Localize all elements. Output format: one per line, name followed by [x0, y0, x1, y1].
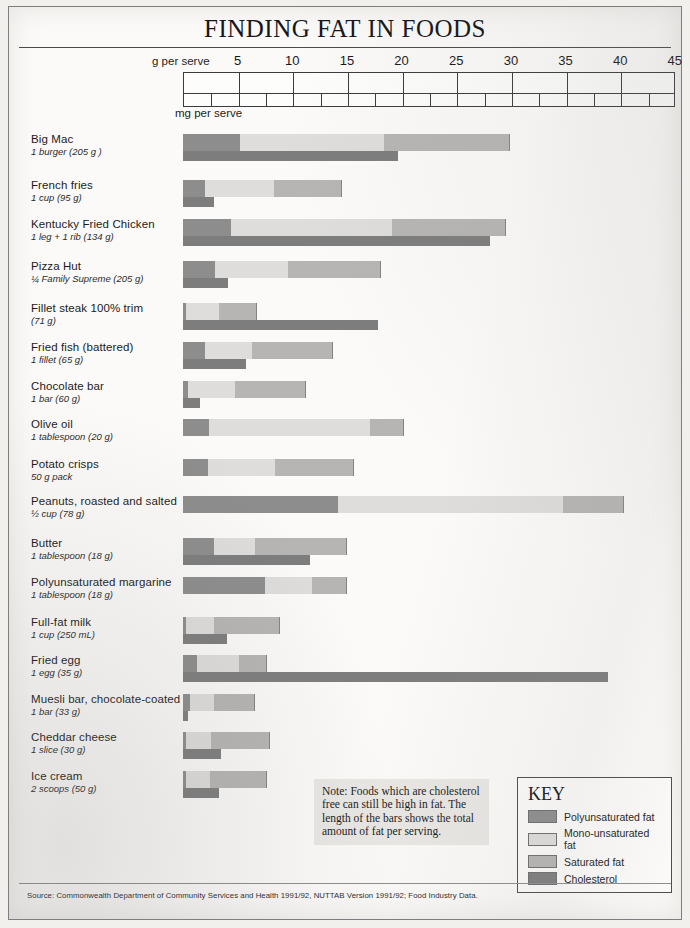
bar-segment-monounsaturated — [186, 617, 214, 634]
serve-size: 1 cup (95 g) — [31, 192, 93, 204]
food-name: Peanuts, roasted and salted — [31, 495, 177, 508]
axis-gridline-15 — [348, 73, 349, 93]
bar-segment-polyunsaturated — [183, 538, 215, 555]
bar-segment-saturated — [312, 577, 347, 594]
serve-size: 1 leg + 1 rib (134 g) — [31, 231, 155, 243]
legend-label: Mono-unsaturated fat — [564, 827, 663, 851]
food-name: Full-fat milk — [31, 616, 95, 629]
chart-page: FINDING FAT IN FOODS g per serve mg per … — [0, 0, 690, 928]
bar-segment-polyunsaturated — [183, 180, 206, 197]
axis-tick-10: 10 — [285, 53, 299, 68]
axis-gridline-5 — [239, 73, 240, 93]
bar-segment-cholesterol — [183, 359, 246, 369]
row-label: Chocolate bar1 bar (60 g) — [31, 380, 104, 405]
axis-tick-15: 15 — [340, 53, 354, 68]
bar-segment-saturated — [370, 419, 404, 436]
row-label: Full-fat milk1 cup (250 mL) — [31, 616, 95, 641]
serve-size: 50 g pack — [31, 471, 99, 483]
bar-segment-cholesterol — [183, 749, 221, 759]
bar-segment-saturated — [255, 538, 347, 555]
row-label: French fries1 cup (95 g) — [31, 179, 93, 204]
bar-segment-polyunsaturated — [183, 459, 209, 476]
bar-segment-cholesterol — [183, 320, 378, 330]
bar-segment-cholesterol — [183, 555, 310, 565]
bar-segment-monounsaturated — [188, 381, 236, 398]
mg-tick-7 — [403, 94, 404, 106]
bar-segment-monounsaturated — [190, 694, 215, 711]
row-label: Butter1 tablespoon (18 g) — [31, 537, 113, 562]
serve-size: 1 bar (60 g) — [31, 393, 104, 405]
bar-segment-monounsaturated — [186, 303, 220, 320]
bar-segment-monounsaturated — [209, 419, 371, 436]
legend-title: KEY — [528, 784, 663, 805]
bar-segment-saturated — [211, 732, 270, 749]
food-name: Butter — [31, 537, 113, 550]
legend-swatch — [528, 855, 557, 868]
serve-size: 1 tablespoon (18 g) — [31, 589, 172, 601]
serve-size: 1 fillet (65 g) — [31, 354, 133, 366]
food-name: Potato crisps — [31, 458, 99, 471]
bar-segment-polyunsaturated — [183, 219, 232, 236]
legend-items: Polyunsaturated fatMono-unsaturated fatS… — [526, 810, 663, 885]
bar-segment-polyunsaturated — [183, 496, 339, 513]
row-label: Olive oil1 tablespoon (20 g) — [31, 418, 113, 443]
row-label: Fried egg1 egg (35 g) — [31, 654, 82, 679]
mg-tick-9 — [457, 94, 458, 106]
serve-size: ½ cup (78 g) — [31, 508, 177, 520]
bar-segment-saturated — [214, 694, 255, 711]
bar-segment-monounsaturated — [186, 771, 211, 788]
food-name: French fries — [31, 179, 93, 192]
row-label: Pizza Hut¼ Family Supreme (205 g) — [31, 260, 143, 285]
legend-swatch — [528, 833, 557, 846]
mg-tick-13 — [567, 94, 568, 106]
mg-tick-16 — [649, 94, 650, 106]
mg-tick-12 — [539, 94, 540, 106]
source-note: Source: Commonwealth Department of Commu… — [27, 891, 478, 900]
mg-tick-15 — [621, 94, 622, 106]
bar-segment-saturated — [274, 180, 343, 197]
page-title: FINDING FAT IN FOODS — [19, 13, 671, 45]
serve-size: ¼ Family Supreme (205 g) — [31, 273, 143, 285]
bar-segment-saturated — [288, 261, 381, 278]
food-name: Big Mac — [31, 133, 102, 146]
bar-segment-monounsaturated — [208, 459, 276, 476]
axis-label-milligrams: mg per serve — [175, 107, 242, 119]
bar-segment-monounsaturated — [197, 655, 240, 672]
mg-tick-5 — [348, 94, 349, 106]
food-name: Fried fish (battered) — [31, 341, 133, 354]
bar-segment-cholesterol — [183, 278, 228, 288]
bar-segment-monounsaturated — [265, 577, 313, 594]
legend-item: Saturated fat — [528, 855, 663, 868]
axis-tick-30: 30 — [504, 53, 518, 68]
bar-segment-cholesterol — [183, 788, 219, 798]
serve-size: 1 egg (35 g) — [31, 667, 82, 679]
bar-segment-saturated — [219, 303, 257, 320]
serve-size: 2 scoops (50 g) — [31, 783, 96, 795]
serve-size: 1 burger (205 g ) — [31, 146, 102, 158]
bar-segment-monounsaturated — [186, 732, 212, 749]
axis-tick-45: 45 — [668, 53, 682, 68]
legend-label: Saturated fat — [564, 856, 624, 868]
bar-segment-saturated — [384, 134, 510, 151]
axis-gridline-10 — [293, 73, 294, 93]
legend-item: Polyunsaturated fat — [528, 810, 663, 823]
bar-segment-monounsaturated — [338, 496, 564, 513]
row-label: Cheddar cheese1 slice (30 g) — [31, 731, 117, 756]
row-label: Muesli bar, chocolate-coated1 bar (33 g) — [31, 693, 180, 718]
row-label: Polyunsaturated margarine1 tablespoon (1… — [31, 576, 172, 601]
scale-axis: g per serve mg per serve 510152025303540… — [9, 51, 683, 123]
serve-size: 1 tablespoon (18 g) — [31, 550, 113, 562]
bar-segment-saturated — [239, 655, 267, 672]
axis-tick-25: 25 — [449, 53, 463, 68]
bar-segment-polyunsaturated — [183, 419, 210, 436]
bar-segment-monounsaturated — [214, 538, 257, 555]
bar-segment-saturated — [392, 219, 507, 236]
milligrams-scale-box — [183, 94, 675, 107]
row-label: Fried fish (battered)1 fillet (65 g) — [31, 341, 133, 366]
food-name: Fillet steak 100% trim — [31, 302, 143, 315]
legend-swatch — [528, 810, 557, 823]
legend-item: Mono-unsaturated fat — [528, 827, 663, 851]
bar-segment-cholesterol — [183, 711, 188, 721]
row-label: Potato crisps50 g pack — [31, 458, 99, 483]
mg-tick-14 — [594, 94, 595, 106]
